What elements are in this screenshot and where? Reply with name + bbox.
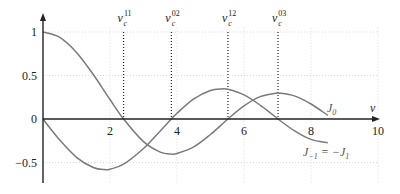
cutoff-marker-label: ν12c	[222, 9, 236, 28]
cutoff-marker-label: ν11c	[118, 9, 132, 28]
x-tick-label: 6	[241, 124, 247, 138]
x-axis-arrow-icon	[372, 116, 380, 122]
cutoff-marker-label: ν02c	[165, 9, 179, 28]
curve-j-minus-1	[43, 89, 328, 170]
x-tick-label: 10	[372, 124, 384, 138]
vertical-markers: ν11cν02cν12cν03c	[118, 9, 287, 119]
chart-canvas: ν11cν02cν12cν03c 24681010.50−0.5 J0J−1 =…	[0, 0, 400, 194]
y-tick-label: 0.5	[22, 69, 37, 83]
curve-j0	[43, 32, 328, 154]
cutoff-marker-label: ν03c	[272, 9, 286, 28]
y-axis-arrow-icon	[40, 13, 46, 21]
label-j0: J0	[327, 101, 336, 117]
label-j-minus-1: J−1 = −J1	[303, 145, 349, 161]
y-tick-label: 1	[31, 25, 37, 39]
bessel-chart: ν11cν02cν12cν03c 24681010.50−0.5 J0J−1 =…	[0, 0, 400, 194]
x-axis-label: v	[370, 101, 376, 115]
y-tick-label: 0	[31, 112, 37, 126]
curves	[43, 32, 328, 170]
x-tick-label: 4	[174, 124, 180, 138]
x-tick-label: 2	[107, 124, 113, 138]
x-tick-label: 8	[308, 124, 314, 138]
y-tick-label: −0.5	[15, 156, 37, 170]
